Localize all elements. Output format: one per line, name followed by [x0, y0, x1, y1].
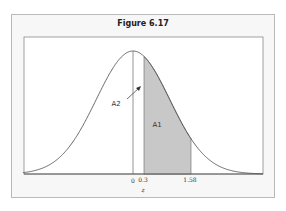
tick-label-0-3: 0.3: [138, 176, 148, 183]
x-axis-label: z: [140, 186, 145, 193]
label-a1: A1: [152, 121, 161, 129]
tick-label-1-58: 1.58: [183, 176, 197, 183]
label-a2: A2: [111, 100, 120, 108]
tick-label-0: 0: [131, 177, 135, 184]
normal-curve-plot: A2 A1 0 0.3 1.58 z: [0, 0, 286, 211]
plot-area: [24, 37, 263, 174]
